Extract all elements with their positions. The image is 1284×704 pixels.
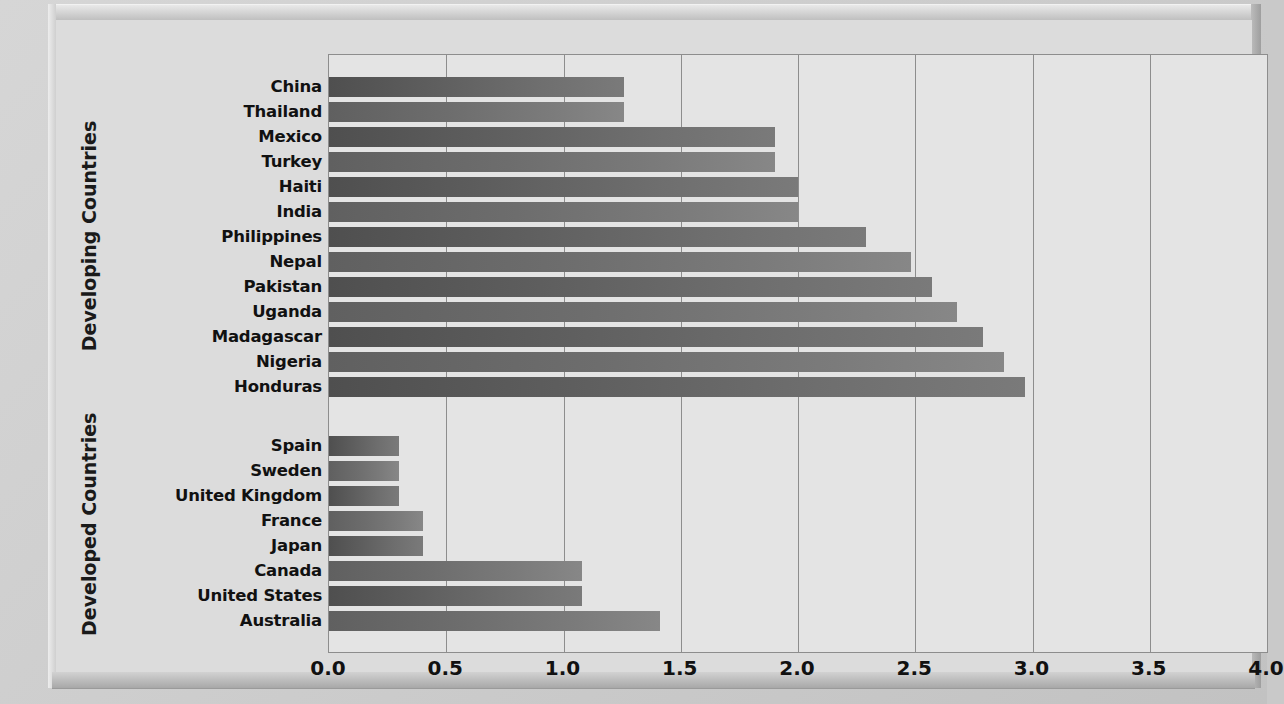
x-tick-label: 3.5 bbox=[1131, 656, 1166, 680]
gridline bbox=[1150, 55, 1151, 652]
category-label: Mexico bbox=[64, 127, 322, 146]
category-label: Sweden bbox=[64, 461, 322, 480]
x-tick-label: 2.0 bbox=[779, 656, 814, 680]
x-tick-label: 0.0 bbox=[310, 656, 345, 680]
plot-area bbox=[328, 54, 1268, 653]
bar bbox=[329, 352, 1004, 372]
bar bbox=[329, 227, 866, 247]
bar bbox=[329, 536, 423, 556]
bar bbox=[329, 202, 798, 222]
frame-bevel-left bbox=[48, 4, 56, 688]
bar bbox=[329, 436, 399, 456]
x-tick-label: 1.0 bbox=[545, 656, 580, 680]
x-tick-label: 4.0 bbox=[1248, 656, 1283, 680]
bar bbox=[329, 177, 798, 197]
bar bbox=[329, 461, 399, 481]
bar bbox=[329, 586, 582, 606]
gridline bbox=[1033, 55, 1034, 652]
gridline bbox=[1267, 55, 1268, 652]
x-tick-label: 0.5 bbox=[428, 656, 463, 680]
chart-panel: Developing Countries Developed Countries… bbox=[56, 20, 1252, 672]
category-label: China bbox=[64, 77, 322, 96]
category-label: Spain bbox=[64, 436, 322, 455]
category-label: Haiti bbox=[64, 177, 322, 196]
x-tick-label: 2.5 bbox=[897, 656, 932, 680]
category-label: Australia bbox=[64, 611, 322, 630]
bar bbox=[329, 77, 624, 97]
bar bbox=[329, 277, 932, 297]
bar bbox=[329, 511, 423, 531]
bar bbox=[329, 152, 775, 172]
bar bbox=[329, 127, 775, 147]
category-label: Uganda bbox=[64, 302, 322, 321]
category-label: France bbox=[64, 511, 322, 530]
category-label: Nepal bbox=[64, 252, 322, 271]
frame-bevel-top bbox=[52, 4, 1255, 21]
bar bbox=[329, 302, 957, 322]
x-tick-label: 1.5 bbox=[662, 656, 697, 680]
category-label: Japan bbox=[64, 536, 322, 555]
category-label: Canada bbox=[64, 561, 322, 580]
bar bbox=[329, 327, 983, 347]
bar bbox=[329, 252, 911, 272]
category-label: Honduras bbox=[64, 377, 322, 396]
bar bbox=[329, 377, 1025, 397]
category-label: Nigeria bbox=[64, 352, 322, 371]
bar bbox=[329, 561, 582, 581]
category-label: United States bbox=[64, 586, 322, 605]
category-axis-labels: ChinaThailandMexicoTurkeyHaitiIndiaPhili… bbox=[64, 54, 322, 653]
category-label: India bbox=[64, 202, 322, 221]
category-label: Turkey bbox=[64, 152, 322, 171]
bar bbox=[329, 611, 660, 631]
category-label: Madagascar bbox=[64, 327, 322, 346]
category-label: Thailand bbox=[64, 102, 322, 121]
bar bbox=[329, 102, 624, 122]
category-label: United Kingdom bbox=[64, 486, 322, 505]
x-tick-label: 3.0 bbox=[1014, 656, 1049, 680]
category-label: Philippines bbox=[64, 227, 322, 246]
x-axis-tick-labels: 0.00.51.01.52.02.53.03.54.0 bbox=[328, 656, 1268, 686]
bar bbox=[329, 486, 399, 506]
category-label: Pakistan bbox=[64, 277, 322, 296]
